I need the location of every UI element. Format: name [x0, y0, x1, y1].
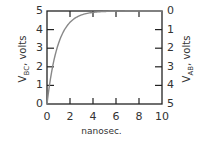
y-tick-label-left: 5	[23, 5, 43, 16]
x-tick-label: 8	[129, 111, 149, 122]
y-tick-label-right: 1	[167, 24, 174, 35]
x-axis-label: nanosec.	[0, 126, 203, 136]
x-tick-label: 0	[37, 111, 57, 122]
plot-frame	[47, 11, 162, 104]
x-tick-label: 2	[60, 111, 80, 122]
data-line	[47, 11, 162, 104]
y-tick-label-right: 2	[167, 42, 174, 53]
y-tick-label-right: 3	[167, 61, 174, 72]
chart: 0123455432100246810 VBC, volts VAB, volt…	[0, 0, 203, 149]
y-tick-label-right: 0	[167, 5, 174, 16]
y-axis-left-label: VBC, volts	[17, 29, 31, 89]
y-tick-label-left: 0	[23, 98, 43, 109]
y-tick-label-right: 4	[167, 79, 174, 90]
x-tick-label: 6	[106, 111, 126, 122]
x-tick-label: 4	[83, 111, 103, 122]
y-tick-label-right: 5	[167, 98, 174, 109]
y-axis-right-label: VAB, volts	[181, 29, 195, 89]
x-tick-label: 10	[152, 111, 172, 122]
